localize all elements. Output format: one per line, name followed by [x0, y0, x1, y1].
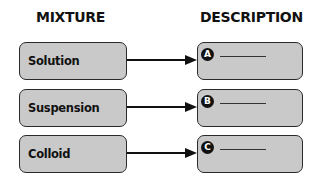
description-blank-c[interactable] [220, 149, 266, 150]
description-blank-a[interactable] [220, 56, 266, 57]
badge-b-icon: B [201, 95, 214, 108]
mixture-box-colloid: Colloid [19, 135, 127, 173]
mixture-label: Colloid [28, 147, 70, 161]
description-box-c: C [197, 135, 303, 173]
heading-mixture: MIXTURE [36, 9, 105, 25]
mixture-box-solution: Solution [19, 42, 127, 80]
description-box-b: B [197, 89, 303, 127]
arrow-icon [127, 55, 197, 65]
description-blank-b[interactable] [220, 103, 266, 104]
arrow-icon [127, 148, 197, 158]
badge-a-icon: A [201, 48, 214, 61]
mixture-box-suspension: Suspension [19, 89, 127, 127]
description-box-a: A [197, 42, 303, 80]
badge-c-icon: C [201, 141, 214, 154]
heading-description: DESCRIPTION [200, 9, 303, 25]
mixture-label: Solution [28, 54, 79, 68]
mixture-label: Suspension [28, 101, 99, 115]
arrow-icon [127, 102, 197, 112]
